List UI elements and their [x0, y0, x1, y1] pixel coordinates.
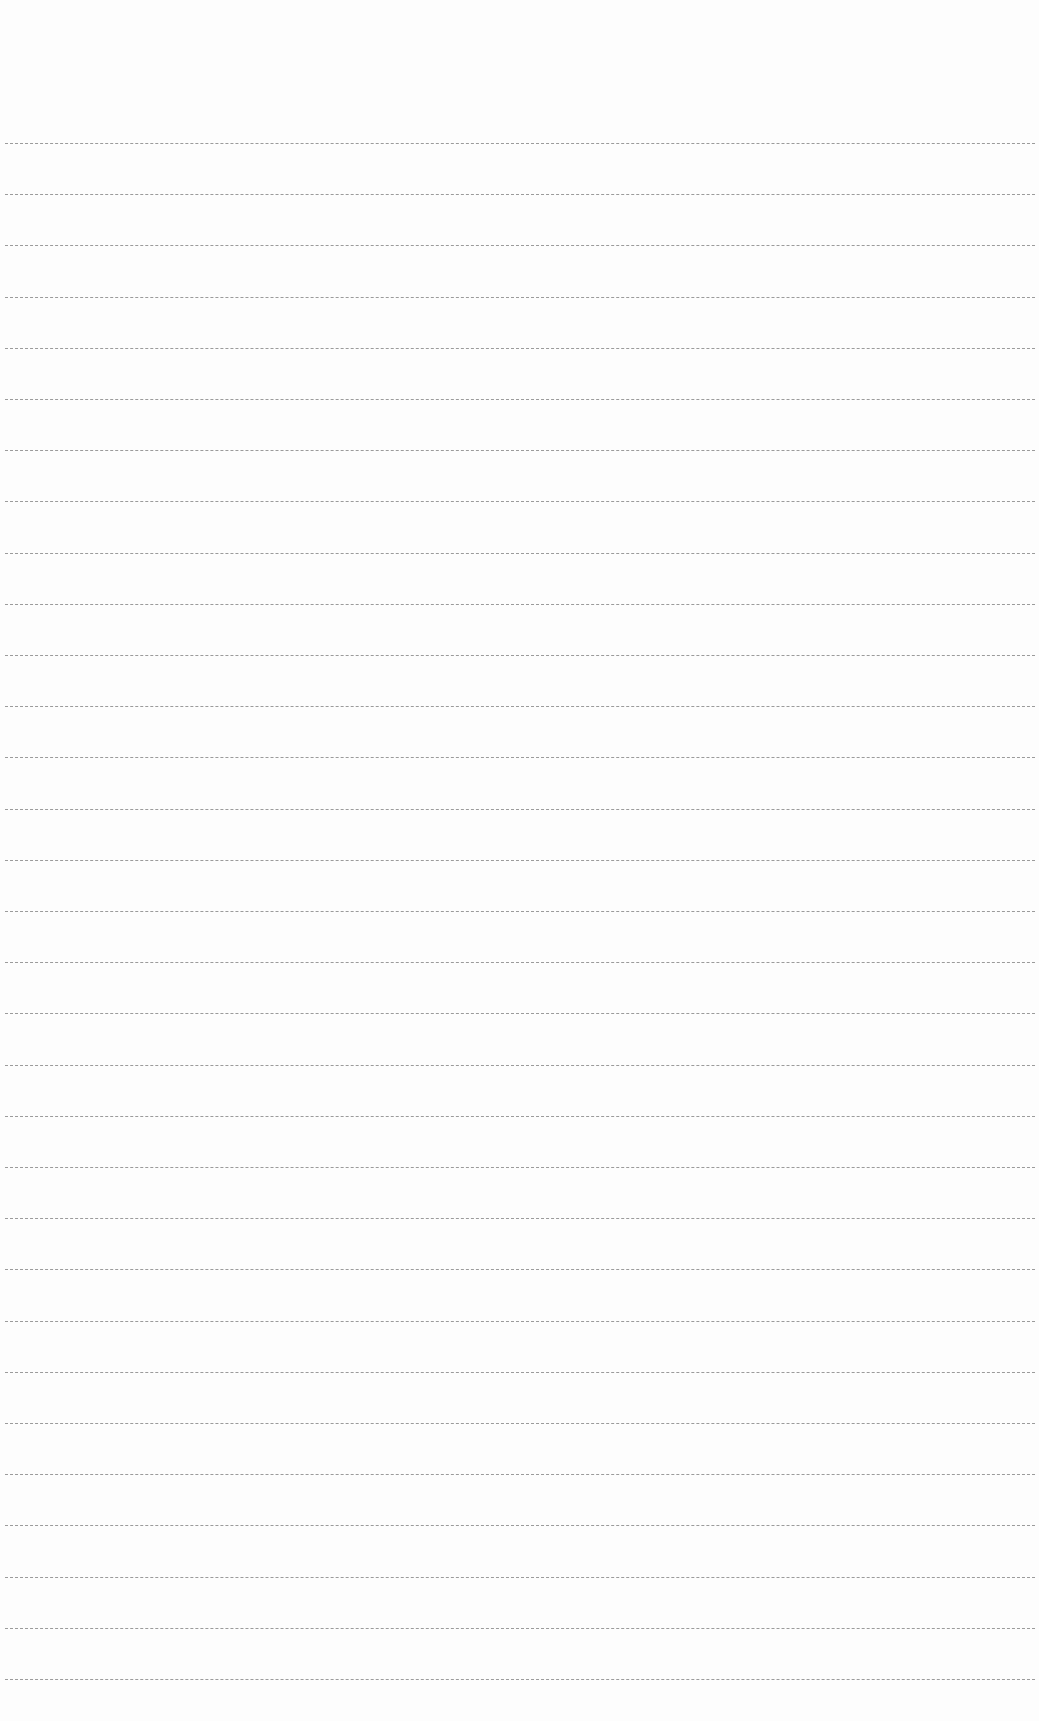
- ruled-line: [5, 1423, 1035, 1424]
- ruled-line: [5, 1065, 1035, 1066]
- ruled-line: [5, 245, 1035, 246]
- ruled-line: [5, 706, 1035, 707]
- ruled-line: [5, 1525, 1035, 1526]
- ruled-line: [5, 1321, 1035, 1322]
- ruled-line: [5, 962, 1035, 963]
- ruled-line: [5, 1167, 1035, 1168]
- ruled-line: [5, 1372, 1035, 1373]
- ruled-line: [5, 757, 1035, 758]
- ruled-line: [5, 450, 1035, 451]
- ruled-line: [5, 553, 1035, 554]
- ruled-line: [5, 348, 1035, 349]
- ruled-line: [5, 1013, 1035, 1014]
- ruled-line: [5, 1577, 1035, 1578]
- ruled-line: [5, 1679, 1035, 1680]
- ruled-line: [5, 297, 1035, 298]
- ruled-line: [5, 1474, 1035, 1475]
- ruled-line: [5, 143, 1035, 144]
- ruled-paper-page: [0, 0, 1039, 1721]
- ruled-line: [5, 1628, 1035, 1629]
- ruled-line: [5, 655, 1035, 656]
- ruled-line: [5, 860, 1035, 861]
- ruled-line: [5, 604, 1035, 605]
- ruled-line: [5, 1116, 1035, 1117]
- ruled-line: [5, 911, 1035, 912]
- ruled-line: [5, 399, 1035, 400]
- ruled-line: [5, 1218, 1035, 1219]
- ruled-line: [5, 194, 1035, 195]
- ruled-line: [5, 501, 1035, 502]
- ruled-line: [5, 1269, 1035, 1270]
- ruled-line: [5, 809, 1035, 810]
